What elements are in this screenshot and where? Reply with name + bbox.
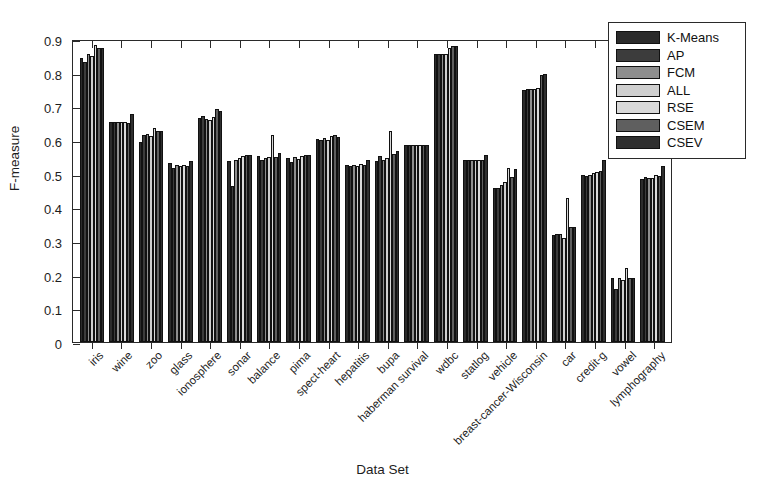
bar bbox=[484, 155, 488, 342]
y-tick-label: 0.2 bbox=[44, 269, 62, 284]
x-tick-mark bbox=[625, 342, 626, 349]
x-tick-mark-top bbox=[151, 41, 152, 48]
x-tick-mark bbox=[477, 342, 478, 349]
x-tick-label: wine bbox=[110, 349, 135, 374]
x-tick-mark-top bbox=[477, 41, 478, 48]
bar bbox=[130, 114, 134, 342]
y-tick-label: 0.5 bbox=[44, 168, 62, 183]
x-tick-label: wdbc bbox=[433, 349, 460, 376]
legend-swatch bbox=[616, 119, 660, 132]
x-tick-mark-top bbox=[181, 41, 182, 48]
y-tick-label: 0.4 bbox=[44, 202, 62, 217]
x-tick-mark-top bbox=[92, 41, 93, 48]
x-tick-mark-top bbox=[506, 41, 507, 48]
y-tick-mark bbox=[73, 142, 80, 143]
x-tick-mark bbox=[388, 342, 389, 349]
legend-item: CSEM bbox=[616, 117, 739, 135]
legend: K-MeansAPFCMALLRSECSEMCSEV bbox=[608, 22, 746, 159]
y-tick-label: 0.1 bbox=[44, 303, 62, 318]
bar bbox=[219, 111, 223, 342]
bar bbox=[543, 74, 547, 342]
y-tick-label: 0.7 bbox=[44, 101, 62, 116]
bar bbox=[278, 153, 282, 342]
x-tick-mark-top bbox=[565, 41, 566, 48]
bar-group bbox=[313, 41, 343, 342]
bar bbox=[455, 46, 459, 342]
x-tick-mark bbox=[121, 342, 122, 349]
x-tick-mark bbox=[565, 342, 566, 349]
bar bbox=[396, 151, 400, 342]
bar bbox=[602, 160, 606, 342]
legend-item: FCM bbox=[616, 64, 739, 82]
bar-group bbox=[254, 41, 284, 342]
bar bbox=[661, 166, 665, 342]
y-tick-mark bbox=[73, 344, 80, 345]
legend-item: CSEV bbox=[616, 134, 739, 152]
x-tick-mark bbox=[299, 342, 300, 349]
x-tick-mark-top bbox=[121, 41, 122, 48]
legend-label: FCM bbox=[667, 66, 695, 79]
bar bbox=[632, 278, 636, 342]
x-tick-mark bbox=[151, 342, 152, 349]
y-tick-mark bbox=[73, 108, 80, 109]
x-tick-mark-top bbox=[299, 41, 300, 48]
bar bbox=[101, 48, 105, 342]
y-tick-mark bbox=[73, 209, 80, 210]
legend-label: ALL bbox=[667, 84, 690, 97]
x-tick-mark bbox=[506, 342, 507, 349]
x-tick-mark bbox=[181, 342, 182, 349]
bar-group bbox=[431, 41, 461, 342]
figure-canvas: F-measure 00.10.20.30.40.50.60.70.80.9 i… bbox=[0, 0, 765, 500]
x-tick-label: iris bbox=[86, 349, 105, 368]
bar bbox=[514, 169, 518, 342]
x-tick-mark-top bbox=[240, 41, 241, 48]
bar bbox=[425, 145, 429, 342]
legend-item: ALL bbox=[616, 82, 739, 100]
bar-group bbox=[107, 41, 137, 342]
x-tick-mark-top bbox=[595, 41, 596, 48]
x-tick-mark-top bbox=[329, 41, 330, 48]
x-tick-label: credit-g bbox=[573, 349, 609, 385]
legend-item: AP bbox=[616, 47, 739, 65]
bar bbox=[307, 155, 311, 342]
legend-swatch bbox=[616, 136, 660, 149]
bar-group bbox=[579, 41, 609, 342]
y-tick-label: 0 bbox=[55, 337, 62, 352]
bars-layer bbox=[73, 41, 671, 342]
bar bbox=[160, 131, 164, 342]
bar-group bbox=[136, 41, 166, 342]
x-tick-mark bbox=[595, 342, 596, 349]
bar-group bbox=[490, 41, 520, 342]
x-tick-mark-top bbox=[358, 41, 359, 48]
bar-group bbox=[343, 41, 373, 342]
legend-item: RSE bbox=[616, 99, 739, 117]
legend-item: K-Means bbox=[616, 29, 739, 47]
y-tick-mark bbox=[73, 41, 80, 42]
y-tick-label: 0.3 bbox=[44, 236, 62, 251]
x-tick-mark-top bbox=[269, 41, 270, 48]
legend-label: CSEM bbox=[667, 119, 705, 132]
bar bbox=[573, 227, 577, 342]
bar-group bbox=[372, 41, 402, 342]
plot-area: 00.10.20.30.40.50.60.70.80.9 bbox=[72, 40, 672, 343]
y-tick-label: 0.9 bbox=[44, 34, 62, 49]
bar-group bbox=[77, 41, 107, 342]
x-tick-mark bbox=[329, 342, 330, 349]
legend-label: RSE bbox=[667, 101, 694, 114]
legend-label: CSEV bbox=[667, 136, 702, 149]
x-axis-title: Data Set bbox=[0, 462, 765, 477]
legend-swatch bbox=[616, 66, 660, 79]
x-tick-mark bbox=[654, 342, 655, 349]
bar bbox=[337, 137, 341, 342]
bar bbox=[248, 155, 252, 342]
bar bbox=[189, 161, 193, 342]
bar-group bbox=[549, 41, 579, 342]
x-tick-label: bupa bbox=[375, 349, 402, 376]
legend-swatch bbox=[616, 84, 660, 97]
legend-swatch bbox=[616, 31, 660, 44]
x-tick-mark-top bbox=[536, 41, 537, 48]
bar-group bbox=[520, 41, 550, 342]
y-tick-mark bbox=[73, 277, 80, 278]
bar bbox=[366, 160, 370, 342]
y-tick-mark bbox=[73, 75, 80, 76]
